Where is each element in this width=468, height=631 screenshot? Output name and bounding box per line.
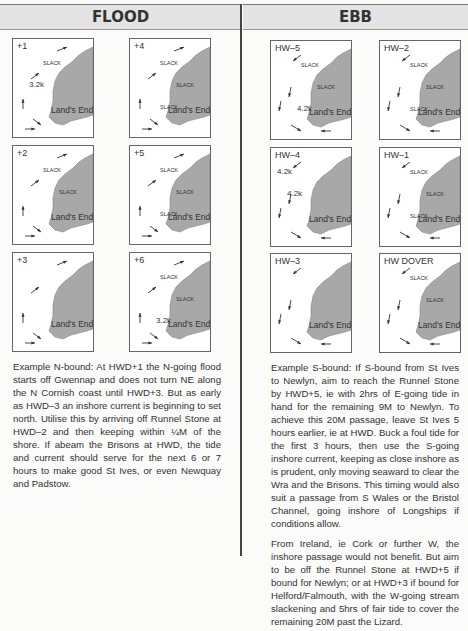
- tidal-stream-chart: Land's End: [271, 254, 351, 352]
- svg-text:3.2k: 3.2k: [156, 316, 172, 325]
- svg-text:SLACK: SLACK: [410, 213, 428, 219]
- flood-example-text: Example N-bound: At HWD+1 the N-going fl…: [13, 360, 221, 497]
- ebb-paragraph-2: From Ireland, ie Cork or further W, the …: [271, 537, 459, 628]
- column-divider: [240, 4, 242, 556]
- map-time-label: +3: [17, 255, 27, 265]
- ebb-map-hw-1: Land's EndSLACKSLACKSLACK HW–1: [379, 147, 461, 247]
- svg-text:SLACK: SLACK: [59, 189, 77, 195]
- svg-text:SLACK: SLACK: [176, 189, 194, 195]
- svg-text:SLACK: SLACK: [426, 84, 444, 90]
- tidal-stream-chart: Land's EndSLACKSLACKSLACK: [380, 41, 460, 139]
- tidal-stream-chart: Land's EndSLACKSLACK4.2k: [271, 41, 351, 139]
- map-time-label: HW–1: [384, 150, 409, 160]
- svg-text:SLACK: SLACK: [410, 62, 428, 68]
- svg-text:Land's End: Land's End: [309, 214, 351, 224]
- svg-text:3.2k: 3.2k: [29, 80, 45, 89]
- svg-text:SLACK: SLACK: [160, 274, 178, 280]
- svg-text:SLACK: SLACK: [176, 296, 194, 302]
- svg-text:SLACK: SLACK: [160, 167, 178, 173]
- map-time-label: +6: [134, 255, 144, 265]
- flood-paragraph: Example N-bound: At HWD+1 the N-going fl…: [13, 360, 221, 490]
- flood-map-plus2: Land's EndSLACKSLACK +2: [12, 145, 94, 245]
- svg-text:SLACK: SLACK: [43, 167, 61, 173]
- svg-text:SLACK: SLACK: [317, 84, 335, 90]
- map-time-label: +2: [17, 148, 27, 158]
- svg-text:4.2k: 4.2k: [287, 189, 303, 198]
- tidal-stream-chart: Land's EndSLACKSLACKSLACK: [380, 148, 460, 246]
- tidal-stream-chart: Land's EndSLACKSLACKSLACK: [130, 146, 210, 244]
- map-time-label: HW–5: [275, 43, 300, 53]
- map-time-label: HW–3: [275, 256, 300, 266]
- ebb-header: EBB: [243, 4, 468, 30]
- tidal-stream-chart: Land's End4.2k4.2k: [271, 148, 351, 246]
- tidal-stream-chart: Land's EndSLACKSLACKSLACK: [130, 39, 210, 137]
- ebb-map-hw-3: Land's End HW–3: [270, 253, 352, 353]
- svg-text:Land's End: Land's End: [418, 320, 460, 330]
- svg-text:SLACK: SLACK: [160, 211, 178, 217]
- svg-text:Land's End: Land's End: [51, 105, 93, 115]
- tidal-stream-chart: Land's EndSLACKSLACK3.2k: [130, 253, 210, 351]
- svg-text:SLACK: SLACK: [43, 60, 61, 66]
- map-time-label: +1: [17, 41, 27, 51]
- map-time-label: HW DOVER: [384, 256, 434, 266]
- flood-map-plus3: Land's End +3: [12, 252, 94, 352]
- svg-text:SLACK: SLACK: [426, 297, 444, 303]
- svg-text:SLACK: SLACK: [160, 60, 178, 66]
- svg-text:Land's End: Land's End: [51, 319, 93, 329]
- flood-map-plus1: Land's EndSLACK3.2k +1: [12, 38, 94, 138]
- ebb-paragraph-1: Example S-bound: If S-bound from St Ives…: [271, 361, 459, 530]
- flood-map-plus4: Land's EndSLACKSLACKSLACK +4: [129, 38, 211, 138]
- flood-header: FLOOD: [0, 4, 241, 30]
- map-time-label: HW–2: [384, 43, 409, 53]
- tidal-stream-chart: Land's EndSLACK3.2k: [13, 39, 93, 137]
- tidal-stream-chart: Land's EndSLACKSLACK: [380, 254, 460, 352]
- tidal-stream-chart: Land's EndSLACKSLACK: [13, 146, 93, 244]
- svg-text:Land's End: Land's End: [51, 212, 93, 222]
- ebb-example-text: Example S-bound: If S-bound from St Ives…: [271, 361, 459, 631]
- svg-text:SLACK: SLACK: [301, 62, 319, 68]
- map-time-label: HW–4: [275, 150, 300, 160]
- svg-text:Land's End: Land's End: [309, 320, 351, 330]
- svg-text:SLACK: SLACK: [410, 106, 428, 112]
- tidal-stream-chart: Land's End: [13, 253, 93, 351]
- svg-text:4.2k: 4.2k: [277, 167, 293, 176]
- ebb-map-hw-4: Land's End4.2k4.2k HW–4: [270, 147, 352, 247]
- svg-text:SLACK: SLACK: [410, 275, 428, 281]
- svg-text:SLACK: SLACK: [410, 169, 428, 175]
- ebb-map-hw-2: Land's EndSLACKSLACKSLACK HW–2: [379, 40, 461, 140]
- svg-text:SLACK: SLACK: [426, 191, 444, 197]
- flood-map-plus5: Land's EndSLACKSLACKSLACK +5: [129, 145, 211, 245]
- map-time-label: +5: [134, 148, 144, 158]
- svg-text:SLACK: SLACK: [176, 82, 194, 88]
- ebb-map-hw-dover: Land's EndSLACKSLACK HW DOVER: [379, 253, 461, 353]
- ebb-map-hw-5: Land's EndSLACKSLACK4.2k HW–5: [270, 40, 352, 140]
- flood-map-plus6: Land's EndSLACKSLACK3.2k +6: [129, 252, 211, 352]
- svg-text:4.2k: 4.2k: [297, 104, 313, 113]
- svg-text:Land's End: Land's End: [168, 319, 210, 329]
- map-time-label: +4: [134, 41, 144, 51]
- svg-text:Land's End: Land's End: [309, 107, 351, 117]
- svg-text:SLACK: SLACK: [160, 104, 178, 110]
